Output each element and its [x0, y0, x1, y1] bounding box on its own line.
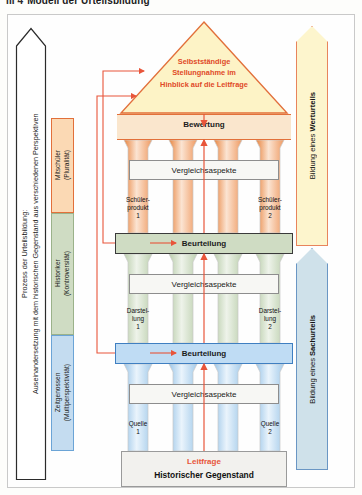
- perspective-zeitgenossen-label: Zeitgenossen (Multiperspektivität): [54, 364, 72, 421]
- band-beurteilung-oben: Beurteilung: [115, 233, 293, 254]
- page-title-text: Modell der Urteilsbildung: [27, 0, 150, 6]
- aspects-label-1: Vergleichsaspekte: [172, 166, 237, 175]
- pediment-line2: Stellungnahme im: [121, 67, 287, 78]
- perspective-zeitgenossen: Zeitgenossen (Multiperspektivität): [51, 335, 74, 451]
- arrow-werturteil: Bildung eines Werturteils: [296, 26, 328, 246]
- arrow-werturteil-prefix: Bildung eines: [308, 132, 317, 180]
- page-title: III 4Modell der Urteilsbildung: [6, 0, 306, 9]
- aspects-label-3: Vergleichsaspekte: [172, 390, 237, 399]
- base-leitfrage-label: Leitfrage: [122, 457, 286, 466]
- arrow-sachurteil: Bildung eines Sachurteils: [296, 248, 328, 470]
- page-title-number: III 4: [6, 0, 23, 6]
- aspects-bar-darstellungen: Vergleichsaspekte: [129, 274, 279, 294]
- left-arrow-line1: Prozess der Urteilsbildung:: [20, 210, 31, 298]
- arrow-werturteil-emphasis: Werturteils: [308, 92, 317, 132]
- left-process-arrow: Prozess der Urteilsbildung: Auseinanders…: [16, 28, 46, 480]
- perspective-historiker-label: Historiker (Kontroversität): [54, 251, 72, 296]
- arrow-sachurteil-emphasis: Sachurteils: [308, 315, 317, 356]
- box-quelle-1: Quelle 1: [121, 420, 155, 436]
- pediment-line1: Selbstständige: [121, 56, 287, 67]
- arrow-sachurteil-label: Bildung eines Sachurteils: [308, 315, 317, 404]
- box-darstellung-1: Darstel- lung 1: [121, 307, 155, 331]
- perspective-mitschueler-label: Mitschüler (Pluralität): [54, 150, 72, 180]
- left-arrow-line2: Auseinandersetzung mit dem historischen …: [31, 114, 41, 394]
- aspects-label-2: Vergleichsaspekte: [172, 280, 237, 289]
- band-beurteilung-unten: Beurteilung: [115, 343, 293, 364]
- box-schuelerprodukt-2: Schüler- produkt 2: [253, 196, 287, 220]
- band-beurteilung-unten-label: Beurteilung: [182, 349, 226, 358]
- architrave-label: Bewertung: [117, 120, 291, 129]
- box-schuelerprodukt-1: Schüler- produkt 1: [121, 196, 155, 220]
- base-historischer-gegenstand: Leitfrage Historischer Gegenstand: [121, 451, 287, 487]
- aspects-bar-quellen: Vergleichsaspekte: [129, 384, 279, 404]
- box-darstellung-2: Darstel- lung 2: [253, 307, 287, 331]
- pediment-line3: Hinblick auf die Leitfrage: [121, 79, 287, 90]
- arrow-werturteil-label: Bildung eines Werturteils: [308, 92, 317, 179]
- perspective-mitschueler: Mitschüler (Pluralität): [51, 118, 74, 213]
- perspective-historiker: Historiker (Kontroversität): [51, 213, 74, 335]
- base-gegenstand-label: Historischer Gegenstand: [122, 470, 286, 480]
- arrow-sachurteil-prefix: Bildung eines: [308, 356, 317, 404]
- diagram-page: III 4Modell der Urteilsbildung Prozess d…: [0, 0, 362, 495]
- architrave-bewertung: Bewertung: [117, 114, 291, 140]
- aspects-bar-schuelerprodukte: Vergleichsaspekte: [129, 160, 279, 180]
- box-quelle-2: Quelle 2: [253, 420, 287, 436]
- band-beurteilung-oben-label: Beurteilung: [182, 239, 226, 248]
- pediment-text: Selbstständige Stellungnahme im Hinblick…: [121, 56, 287, 90]
